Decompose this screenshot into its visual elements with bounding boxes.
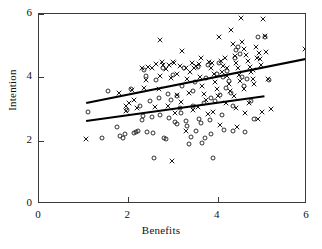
y-tick-label-4: 4 (10, 70, 32, 81)
x-tick-label-2: 2 (116, 209, 138, 220)
y-tick-4 (39, 77, 44, 78)
y-axis-title: Intention (6, 42, 18, 138)
y-tick-label-0: 0 (10, 197, 32, 208)
x-tick-label-6: 6 (295, 209, 317, 220)
plot-frame (38, 13, 306, 203)
y-tick-label-6: 6 (10, 7, 32, 18)
y-tick-label-2: 2 (10, 134, 32, 145)
y-tick-2 (39, 141, 44, 142)
x-tick-4 (218, 197, 219, 202)
y-tick-6 (39, 14, 44, 15)
x-axis-title: Benefits (0, 224, 322, 236)
scatter-plot-figure: Benefits Intention 02460246 (0, 0, 322, 249)
x-tick-label-0: 0 (27, 209, 49, 220)
x-tick-label-4: 4 (206, 209, 228, 220)
x-tick-2 (128, 197, 129, 202)
plot-area (39, 14, 305, 202)
